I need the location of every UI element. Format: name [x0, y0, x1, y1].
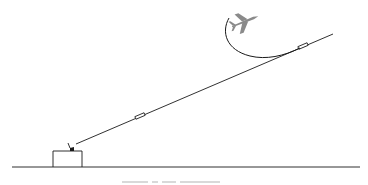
radar-antenna-icon — [68, 143, 74, 151]
jet-aircraft-icon — [227, 8, 262, 36]
ground-station — [53, 151, 82, 167]
figure-caption — [122, 181, 250, 185]
beam-rider-diagram — [0, 0, 368, 185]
missile-icon — [135, 113, 145, 119]
